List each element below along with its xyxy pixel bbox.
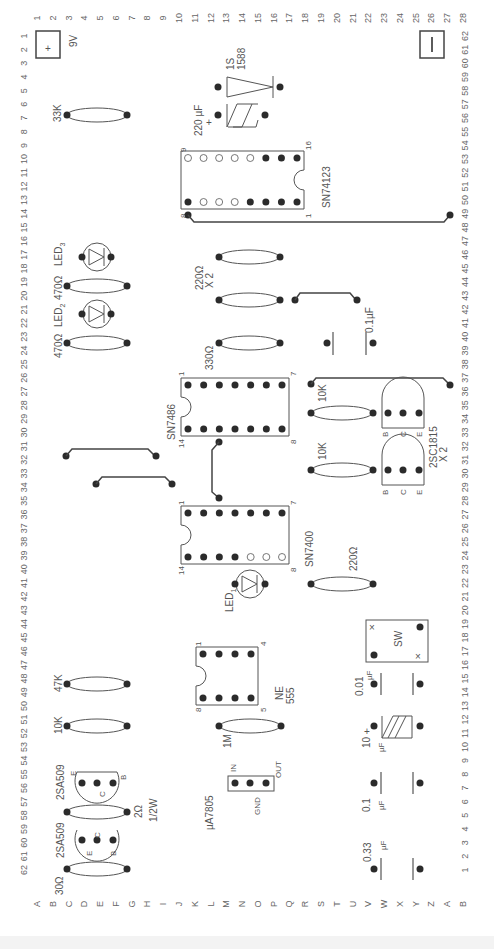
column-letter: M: [221, 900, 231, 908]
ic-pin-hole: [216, 651, 223, 658]
cap-01b-unit: µF: [377, 800, 386, 810]
column-number: 21: [348, 13, 358, 23]
r-1m-label: 1M: [222, 734, 233, 748]
transistor-2sc1815-a: [382, 377, 424, 428]
reg-in-label: IN: [229, 764, 238, 772]
row-number-right: 37: [460, 373, 470, 383]
r-2-label: 2Ω: [133, 804, 144, 818]
ic-pin-hole: [247, 382, 254, 389]
resistor-47k: [64, 677, 131, 691]
capacitor-10uf: [371, 716, 424, 738]
row-number-left: 24: [19, 345, 29, 355]
column-letter: Q: [284, 900, 294, 907]
row-number-right: 62: [460, 31, 470, 41]
row-number-left: 22: [19, 318, 29, 328]
led1-label: LED1: [224, 589, 237, 612]
row-number-left: 54: [19, 756, 29, 766]
column-letter: Y: [411, 901, 421, 907]
column-number: 16: [269, 13, 279, 23]
row-number-left: 56: [19, 783, 29, 793]
row-number-left: 23: [19, 332, 29, 342]
resistor-10k-b: [308, 463, 377, 477]
transistor-2sc1815-b: [382, 434, 424, 485]
cap-220-plus: +: [206, 117, 212, 128]
row-number-right: 16: [460, 660, 470, 670]
ic-sn7400: [181, 506, 289, 564]
resistor-220-b: [216, 293, 284, 307]
row-number-right: 57: [460, 99, 470, 109]
row-number-right: 51: [460, 181, 470, 191]
row-number-left: 43: [19, 605, 29, 615]
row-number-right: 49: [460, 209, 470, 219]
row-number-right: 50: [460, 195, 470, 205]
row-number-right: 40: [460, 332, 470, 342]
tr-2sa509-a-e: E: [69, 771, 78, 776]
diode-label-1: 1S: [225, 57, 236, 70]
row-number-right: 29: [460, 482, 470, 492]
row-number-left: 55: [19, 769, 29, 779]
tr-2sa509-b-e: E: [85, 851, 94, 856]
ic-pin-hole: [279, 382, 286, 389]
row-number-right: 3: [460, 840, 470, 845]
r-47k-label: 47K: [53, 674, 64, 692]
ic-pin-hole: [294, 199, 301, 206]
row-number-left: 17: [19, 250, 29, 260]
row-number-right: 14: [460, 687, 470, 697]
column-number: 11: [190, 13, 200, 22]
column-letter: U: [348, 901, 358, 908]
resistor-33k: [64, 108, 131, 122]
row-number-right: 28: [460, 496, 470, 506]
r-10k-b-label: 10K: [317, 442, 328, 460]
r-470-b-label: 470Ω: [53, 333, 64, 358]
row-number-left: 48: [19, 674, 29, 684]
column-letter: K: [190, 901, 200, 907]
led2-label: LED2: [53, 304, 66, 327]
row-number-left: 25: [19, 359, 29, 369]
ic-pin-hole: [247, 199, 254, 206]
capacitor-0-33uf: [371, 858, 424, 880]
column-letter: S: [316, 901, 326, 907]
ic-pin-hole: [200, 510, 207, 517]
tr-2sa509-b-label: 2SA509: [55, 822, 66, 858]
tr-a-pin-c: C: [399, 431, 408, 437]
jumper-wire-left-a: [63, 449, 160, 460]
jumper-wire-left-b: [93, 477, 176, 488]
reg-out-label: OUT: [274, 761, 283, 778]
row-number-left: 36: [19, 510, 29, 520]
resistor-2-ohm: [64, 805, 131, 819]
ic-sn74123: [181, 151, 304, 209]
row-number-right: 4: [460, 826, 470, 831]
column-letter: E: [95, 901, 105, 907]
row-number-left: 38: [19, 537, 29, 547]
ic-pin-hole: [247, 155, 254, 162]
row-number-right: 55: [460, 127, 470, 137]
column-number: 19: [316, 13, 326, 23]
led-1: [232, 570, 269, 598]
row-number-left: 16: [19, 236, 29, 246]
row-number-left: 40: [19, 564, 29, 574]
row-number-right: 36: [460, 386, 470, 396]
column-number: 24: [395, 13, 405, 23]
row-number-left: 1: [19, 33, 29, 38]
column-number: 27: [442, 13, 452, 23]
row-number-right: 31: [460, 455, 470, 465]
ic-pin-hole: [232, 554, 239, 561]
row-number-left: 10: [19, 154, 29, 164]
reg-name-label: µA7805: [204, 795, 215, 830]
tr-a-pin-b: B: [381, 432, 390, 437]
column-letter: Z: [426, 901, 436, 907]
ic-pin-hole: [263, 382, 270, 389]
column-letter: B: [48, 901, 58, 907]
ic-pin-hole: [200, 651, 207, 658]
row-number-left: 12: [19, 181, 29, 191]
column-number: 26: [426, 13, 436, 23]
row-number-left: 13: [19, 195, 29, 205]
ic-pin-hole: [216, 554, 223, 561]
ic-pin-hole: [294, 155, 301, 162]
column-letter: O: [253, 900, 263, 907]
r-220-label: 220Ω: [348, 546, 359, 571]
column-number: 12: [206, 13, 216, 23]
capacitor-220uf: [215, 104, 269, 127]
jumper-wire-short-a: [292, 293, 361, 304]
row-number-left: 44: [19, 619, 29, 629]
